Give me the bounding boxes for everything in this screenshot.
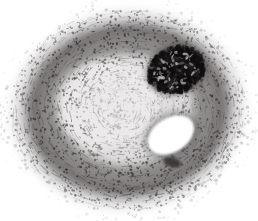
background-vignette xyxy=(0,0,258,221)
histology-image xyxy=(0,0,258,221)
micrograph-canvas xyxy=(0,0,258,221)
